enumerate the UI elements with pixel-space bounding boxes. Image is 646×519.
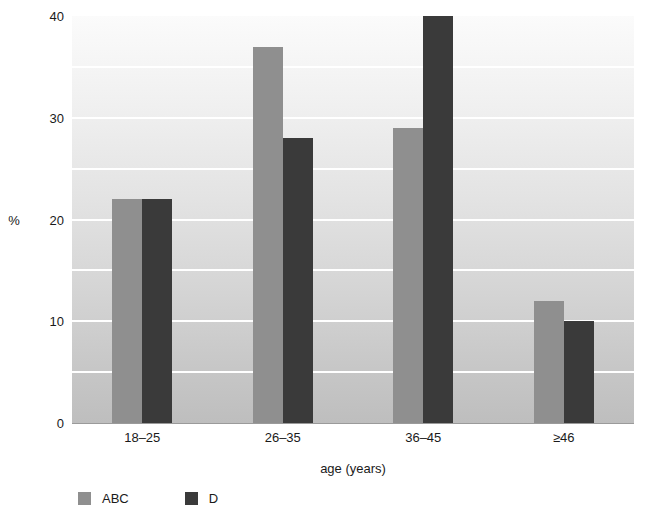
legend-swatch-icon bbox=[78, 492, 91, 505]
y-axis-tick-label: 30 bbox=[20, 112, 64, 125]
y-axis-tick-labels: 010203040 bbox=[16, 0, 64, 519]
x-axis-tick-label: ≥46 bbox=[514, 430, 614, 445]
chart-legend: ABCD bbox=[78, 492, 274, 505]
legend-item[interactable]: ABC bbox=[78, 492, 129, 505]
legend-item[interactable]: D bbox=[185, 492, 218, 505]
plot-area bbox=[72, 16, 634, 423]
bar bbox=[393, 128, 423, 423]
bar bbox=[564, 321, 594, 423]
y-axis-tick-label: 20 bbox=[20, 214, 64, 227]
x-axis-title: age (years) bbox=[72, 461, 634, 476]
x-axis-tick-label: 36–45 bbox=[373, 430, 473, 445]
bar bbox=[142, 199, 172, 423]
bar-chart: % 010203040 18–2526–3536–45≥46 age (year… bbox=[0, 0, 646, 519]
y-axis-tick-label: 10 bbox=[20, 315, 64, 328]
x-axis-tick-label: 26–35 bbox=[233, 430, 333, 445]
legend-label: ABC bbox=[102, 492, 129, 505]
legend-swatch-icon bbox=[185, 492, 198, 505]
bar bbox=[112, 199, 142, 423]
bar bbox=[534, 301, 564, 423]
y-axis-tick-label: 0 bbox=[20, 417, 64, 430]
y-axis-tick-label: 40 bbox=[20, 10, 64, 23]
legend-label: D bbox=[209, 492, 218, 505]
bar bbox=[423, 16, 453, 423]
bar bbox=[283, 138, 313, 423]
bars-layer bbox=[72, 16, 634, 423]
bar bbox=[253, 47, 283, 423]
x-axis-tick-label: 18–25 bbox=[92, 430, 192, 445]
x-axis-line bbox=[72, 423, 634, 424]
